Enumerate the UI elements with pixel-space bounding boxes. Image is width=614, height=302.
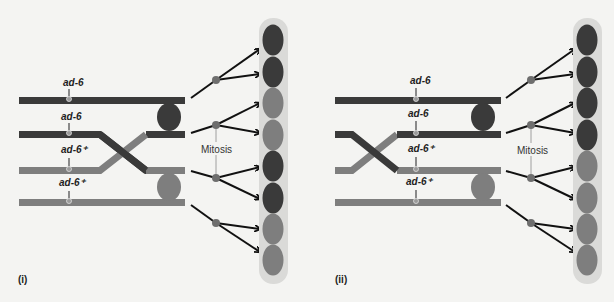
- mitosis-branch-2: [506, 103, 575, 133]
- centromere-light: [471, 173, 495, 201]
- mitosis-branch-1: [506, 49, 575, 98]
- chromatid-2-right: [146, 131, 185, 138]
- centromere-dark: [471, 103, 495, 131]
- spore-5: [577, 151, 598, 182]
- spore-3: [577, 88, 598, 119]
- mitosis-branch-4: [191, 205, 260, 252]
- spore-2: [263, 57, 284, 88]
- chromatid-2-right: [397, 131, 501, 138]
- spore-7: [577, 214, 598, 245]
- panel-label-ii: (ii): [335, 274, 347, 285]
- svg-text:ad-6⁺: ad-6⁺: [61, 144, 89, 155]
- chromatid-1: [19, 97, 185, 104]
- centromere-dark: [157, 103, 181, 131]
- mitosis-branch-1: [191, 49, 260, 98]
- spore-1: [577, 25, 598, 56]
- mitosis-branch-3: [191, 167, 260, 199]
- panel-label-i: (i): [18, 274, 27, 285]
- spore-2: [577, 57, 598, 88]
- svg-text:ad-6: ad-6: [61, 111, 82, 122]
- chromatid-4: [19, 199, 185, 206]
- panel-i: ad-6 ad-6 ad-6⁺ ad-6⁺ Mitosis: [18, 18, 288, 285]
- chromatid-3-right: [146, 167, 185, 174]
- mitosis-branch-3: [506, 167, 575, 199]
- spore-5: [263, 151, 284, 182]
- spore-8: [263, 245, 284, 276]
- mitosis-label: Mitosis: [201, 144, 232, 155]
- panel-ii: ad-6 ad-6 ad-6⁺ ad-6⁺ Mitosis: [335, 18, 602, 285]
- mitosis-label: Mitosis: [517, 145, 548, 156]
- spore-1: [263, 25, 284, 56]
- svg-text:ad-6⁺: ad-6⁺: [59, 177, 87, 188]
- centromere-light: [157, 173, 181, 201]
- spore-4: [263, 120, 284, 151]
- spore-3: [263, 88, 284, 119]
- svg-text:ad-6: ad-6: [408, 108, 429, 119]
- spore-8: [577, 245, 598, 276]
- svg-text:ad-6⁺: ad-6⁺: [406, 176, 434, 187]
- spore-7: [263, 214, 284, 245]
- spore-6: [577, 183, 598, 214]
- spore-6: [263, 183, 284, 214]
- ascus-crossover-diagram: ad-6 ad-6 ad-6⁺ ad-6⁺ Mitosis: [0, 0, 614, 302]
- svg-text:ad-6: ad-6: [410, 75, 431, 86]
- mitosis-branch-4: [506, 205, 575, 252]
- svg-text:ad-6⁺: ad-6⁺: [408, 143, 436, 154]
- chromatid-3-right: [397, 167, 501, 174]
- spore-4: [577, 120, 598, 151]
- svg-text:ad-6: ad-6: [63, 77, 84, 88]
- mitosis-branch-2: [191, 103, 260, 133]
